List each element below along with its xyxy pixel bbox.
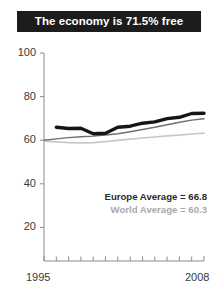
y-tick-label-100: 100 xyxy=(18,47,36,58)
y-tick-label-40: 40 xyxy=(24,178,36,189)
annotation-world-average: World Average = 60.3 xyxy=(0,205,207,216)
x-tick-label-start: 1995 xyxy=(26,272,50,283)
y-tick-label-60: 60 xyxy=(24,134,36,145)
x-tick-label-end: 2008 xyxy=(185,272,209,283)
chart-figure: The economy is 71.5% free xyxy=(0,0,218,302)
y-tick-label-80: 80 xyxy=(24,91,36,102)
y-tick-label-20: 20 xyxy=(24,221,36,232)
plot-area: 100 80 60 40 20 1995 2008 Europe Average… xyxy=(0,0,218,302)
series-economy-line xyxy=(56,113,204,133)
x-axis-ticks xyxy=(44,256,204,261)
annotation-europe-average: Europe Average = 66.8 xyxy=(0,192,207,203)
